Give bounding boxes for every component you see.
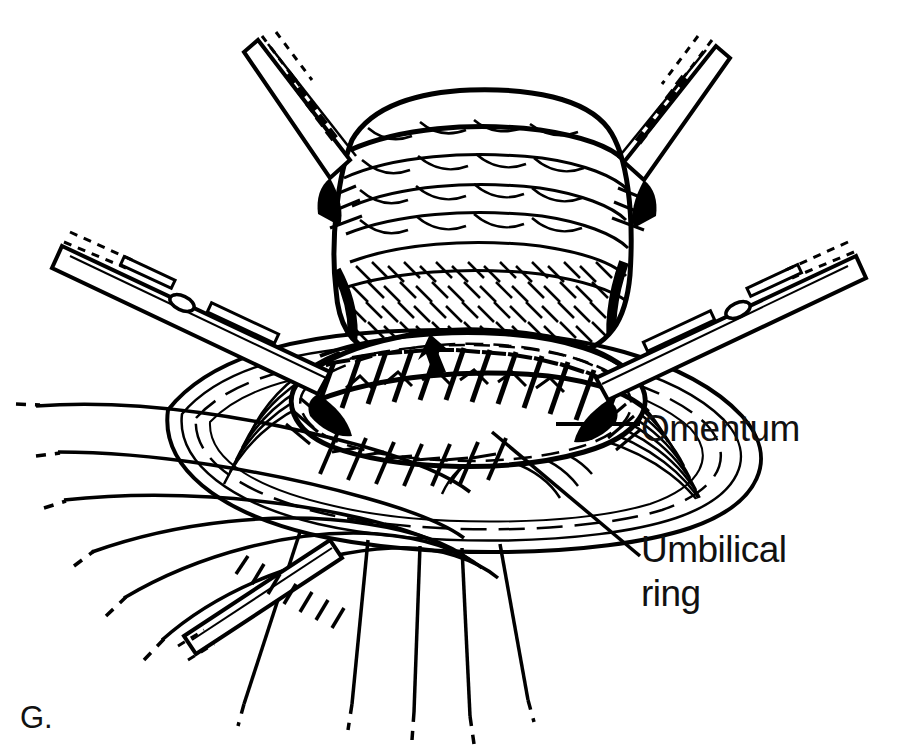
surgical-illustration-figure: Omentum Umbilical ring G.	[0, 0, 917, 756]
label-omentum: Omentum	[641, 407, 800, 451]
label-umbilical-ring: Umbilical ring	[641, 528, 787, 615]
instrument-handle-lower-left	[178, 540, 344, 660]
omentum-mass	[334, 90, 631, 364]
suture-threads-left-tips	[16, 404, 164, 660]
suture-threads-bottom	[244, 532, 528, 716]
illustration-canvas	[0, 0, 917, 756]
figure-letter: G.	[20, 700, 53, 736]
suture-threads-bottom-tips	[238, 700, 534, 744]
